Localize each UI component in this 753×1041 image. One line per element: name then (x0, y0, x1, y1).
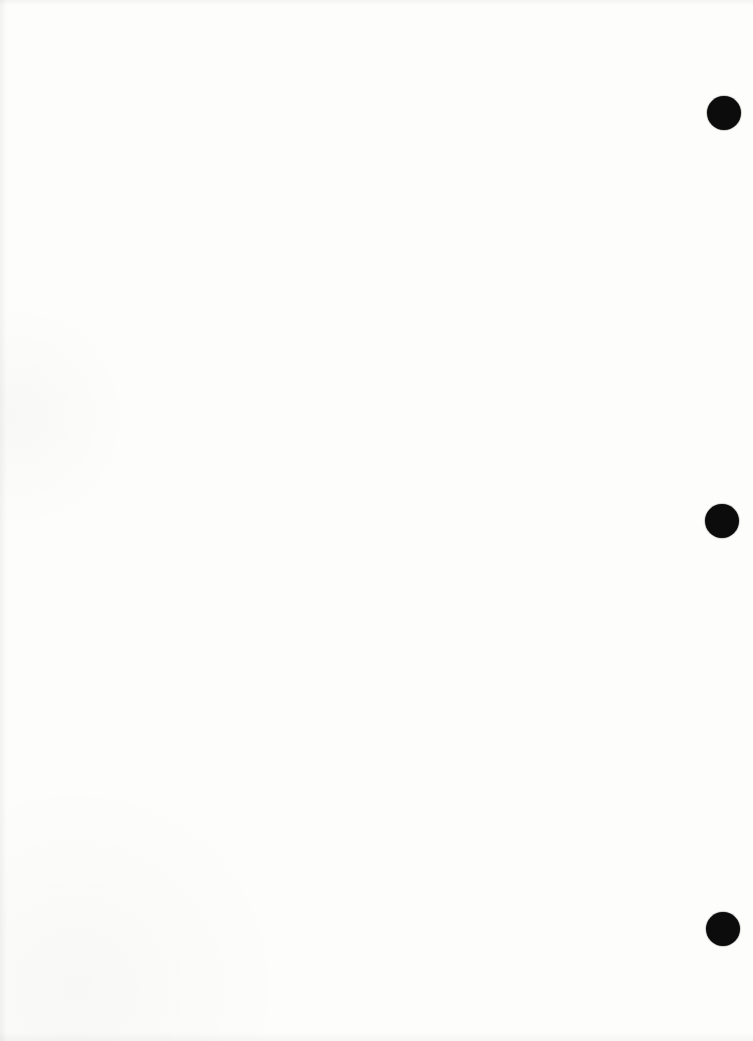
punch-hole-mark (705, 504, 739, 538)
scanned-page (0, 0, 753, 1041)
punch-hole-mark (706, 912, 740, 946)
punch-hole-mark (707, 96, 741, 130)
